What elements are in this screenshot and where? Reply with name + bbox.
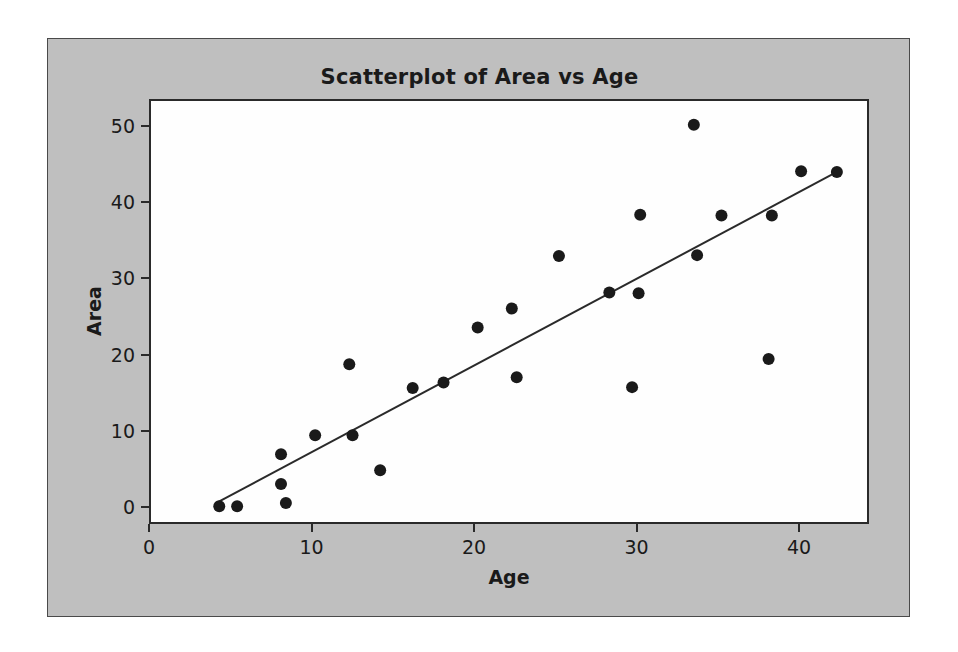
scatter-point bbox=[633, 287, 645, 299]
scatter-point bbox=[553, 250, 565, 262]
scatter-point bbox=[506, 303, 518, 315]
x-tick-label: 20 bbox=[462, 536, 486, 558]
scatter-point bbox=[763, 353, 775, 365]
y-tick-mark bbox=[141, 125, 149, 127]
y-tick-label: 0 bbox=[123, 496, 135, 518]
scatter-point bbox=[626, 381, 638, 393]
scatter-point bbox=[691, 249, 703, 261]
y-tick-label: 20 bbox=[111, 344, 135, 366]
scatter-point bbox=[831, 166, 843, 178]
scatter-point bbox=[688, 119, 700, 131]
y-tick-label: 10 bbox=[111, 420, 135, 442]
scatter-point bbox=[275, 478, 287, 490]
y-tick-mark bbox=[141, 201, 149, 203]
y-tick-mark bbox=[141, 277, 149, 279]
regression-line bbox=[216, 172, 837, 503]
y-tick-mark bbox=[141, 430, 149, 432]
x-axis-title: Age bbox=[409, 566, 609, 588]
y-tick-label: 50 bbox=[111, 115, 135, 137]
scatter-point bbox=[374, 464, 386, 476]
y-tick-label: 30 bbox=[111, 267, 135, 289]
scatter-point bbox=[407, 382, 419, 394]
scatter-point bbox=[231, 500, 243, 512]
scatter-point bbox=[347, 429, 359, 441]
scatter-point bbox=[715, 209, 727, 221]
screenshot-root: Scatterplot of Area vs Age Area Age 0102… bbox=[0, 0, 958, 652]
scatter-point bbox=[213, 500, 225, 512]
x-tick-label: 40 bbox=[787, 536, 811, 558]
x-tick-mark bbox=[148, 524, 150, 532]
chart-title: Scatterplot of Area vs Age bbox=[48, 65, 911, 89]
y-tick-mark bbox=[141, 354, 149, 356]
scatter-point bbox=[795, 165, 807, 177]
y-tick-label: 40 bbox=[111, 191, 135, 213]
x-tick-label: 10 bbox=[299, 536, 323, 558]
scatter-point bbox=[634, 209, 646, 221]
scatter-point bbox=[511, 371, 523, 383]
x-tick-label: 30 bbox=[624, 536, 648, 558]
x-tick-label: 0 bbox=[143, 536, 155, 558]
scatter-point bbox=[438, 377, 450, 389]
graph-panel: Scatterplot of Area vs Age Area Age 0102… bbox=[47, 38, 910, 617]
scatter-point bbox=[343, 358, 355, 370]
scatter-point bbox=[472, 322, 484, 334]
scatter-point bbox=[309, 429, 321, 441]
scatter-point bbox=[603, 287, 615, 299]
scatter-point bbox=[766, 209, 778, 221]
plot-area bbox=[149, 99, 869, 524]
scatter-point bbox=[280, 497, 292, 509]
y-tick-mark bbox=[141, 506, 149, 508]
y-axis-title: Area bbox=[83, 261, 105, 361]
regression-line-segment bbox=[216, 172, 837, 503]
scatter-point bbox=[275, 448, 287, 460]
scatter-canvas bbox=[151, 101, 871, 526]
